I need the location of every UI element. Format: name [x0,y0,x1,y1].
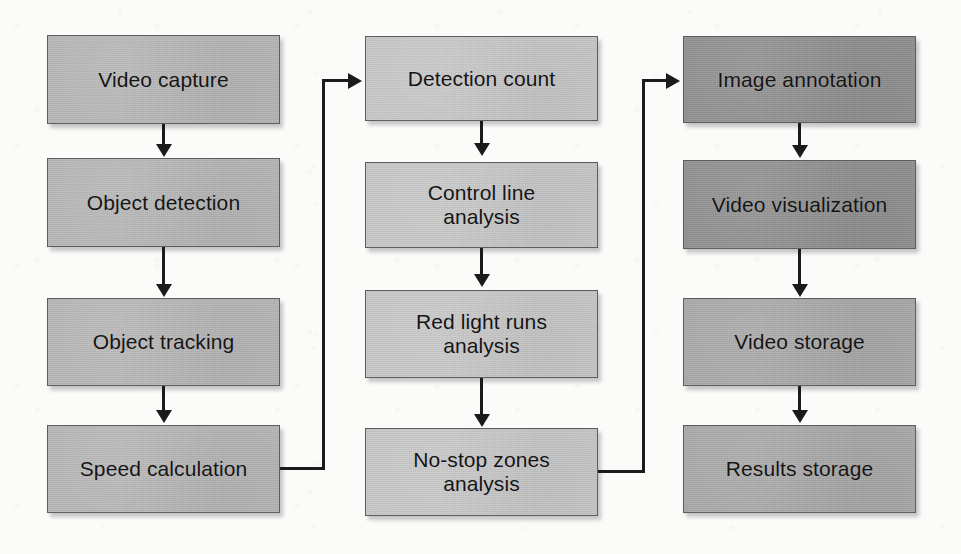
edge-image-annotation-to-video-visualization [798,123,801,147]
node-video-storage[interactable]: Video storage [683,298,916,386]
node-label: Red light runs analysis [410,310,553,358]
edge-control-line-to-red-light-runs [480,248,483,276]
arrowhead-down-icon [474,143,490,156]
arrowhead-down-icon [156,410,172,423]
arrowhead-down-icon [792,410,808,423]
edge-detection-count-to-control-line-analysis [480,121,483,145]
node-label: Object tracking [87,330,241,354]
arrowhead-right-icon [348,73,362,89]
arrowhead-down-icon [792,284,808,297]
arrowhead-down-icon [792,145,808,158]
node-label: Detection count [402,67,561,91]
edge-no-stop-zones-to-image-annotation-horizontal-lower [598,470,645,473]
node-results-storage[interactable]: Results storage [683,425,916,513]
node-object-tracking[interactable]: Object tracking [47,298,280,386]
node-detection-count[interactable]: Detection count [365,36,598,121]
node-label: Video visualization [706,193,893,217]
edge-video-visualization-to-video-storage [798,249,801,286]
node-label: Video storage [728,330,871,354]
arrowhead-down-icon [474,414,490,427]
node-label: No-stop zones analysis [407,448,556,496]
edge-object-detection-to-object-tracking [162,247,165,286]
node-label: Video capture [92,68,235,92]
edge-red-light-runs-to-no-stop-zones [480,378,483,416]
node-image-annotation[interactable]: Image annotation [683,36,916,123]
edge-no-stop-zones-to-image-annotation-horizontal-upper [642,79,668,82]
node-video-capture[interactable]: Video capture [47,35,280,124]
node-red-light-runs-analysis[interactable]: Red light runs analysis [365,290,598,378]
node-video-visualization[interactable]: Video visualization [683,160,916,249]
node-label: Control line analysis [422,181,541,229]
edge-video-capture-to-object-detection [162,124,165,146]
node-label: Speed calculation [74,457,254,481]
node-label: Object detection [81,191,246,215]
edge-video-storage-to-results-storage [798,386,801,412]
node-object-detection[interactable]: Object detection [47,158,280,247]
arrowhead-down-icon [474,274,490,287]
edge-speed-calculation-to-detection-count-vertical [322,79,325,470]
arrowhead-down-icon [156,284,172,297]
node-speed-calculation[interactable]: Speed calculation [47,425,280,513]
node-label: Results storage [720,457,879,481]
node-label: Image annotation [712,68,888,92]
edge-speed-calculation-to-detection-count-horizontal-lower [280,467,325,470]
node-control-line-analysis[interactable]: Control line analysis [365,162,598,248]
edge-object-tracking-to-speed-calculation [162,386,165,412]
edge-speed-calculation-to-detection-count-horizontal-upper [322,79,350,82]
node-no-stop-zones-analysis[interactable]: No-stop zones analysis [365,428,598,516]
flowchart-canvas: Video capture Object detection Object tr… [0,0,961,554]
arrowhead-right-icon [666,73,680,89]
edge-no-stop-zones-to-image-annotation-vertical [642,79,645,473]
arrowhead-down-icon [156,144,172,157]
